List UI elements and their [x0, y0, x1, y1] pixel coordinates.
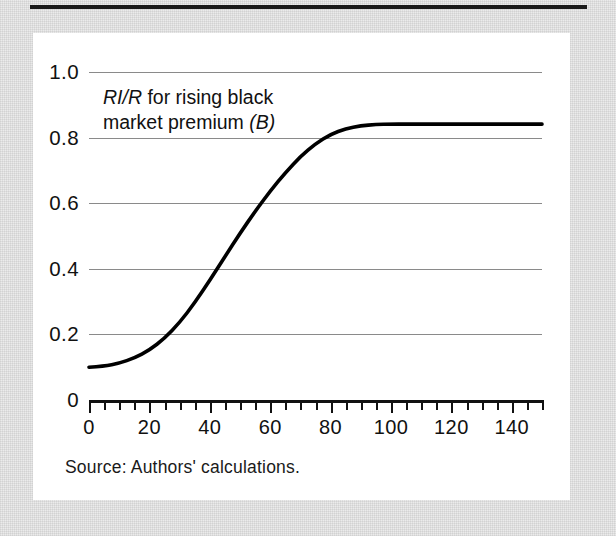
x-tick-50	[240, 400, 242, 410]
x-tick-70	[300, 400, 302, 410]
x-tick-55	[255, 400, 257, 410]
x-tick-65	[285, 400, 287, 410]
x-tick-135	[497, 400, 499, 410]
y-tick-label-0.4: 0.4	[19, 259, 79, 280]
annotation-part-3: (B)	[249, 111, 275, 133]
x-tick-label-40: 40	[198, 416, 221, 439]
x-tick-label-20: 20	[138, 416, 161, 439]
series-line-ri-over-r	[89, 124, 542, 367]
x-tick-140	[512, 400, 514, 413]
y-tick-label-0.6: 0.6	[19, 193, 79, 214]
x-tick-105	[406, 400, 408, 410]
x-tick-80	[331, 400, 333, 413]
x-tick-125	[467, 400, 469, 410]
x-tick-130	[482, 400, 484, 410]
annotation-part-1: for rising black	[142, 86, 273, 108]
x-tick-40	[210, 400, 212, 413]
x-tick-0	[89, 400, 91, 413]
y-tick-label-0.2: 0.2	[19, 324, 79, 345]
y-tick-label-0.8: 0.8	[19, 128, 79, 149]
x-tick-75	[316, 400, 318, 410]
x-tick-label-0: 0	[83, 416, 95, 439]
x-tick-10	[119, 400, 121, 410]
x-tick-150	[542, 400, 544, 410]
x-tick-95	[376, 400, 378, 410]
x-tick-15	[134, 400, 136, 410]
x-tick-35	[195, 400, 197, 410]
annotation-part-2: market premium	[103, 111, 249, 133]
figure-container: 1.00.80.60.40.20 020406080100120140 RI/R…	[0, 0, 616, 536]
x-tick-115	[436, 400, 438, 410]
x-tick-5	[104, 400, 106, 410]
y-tick-label-0: 0	[19, 390, 79, 411]
x-tick-label-80: 80	[319, 416, 342, 439]
figure-panel: 1.00.80.60.40.20 020406080100120140 RI/R…	[33, 33, 570, 500]
x-tick-label-60: 60	[259, 416, 282, 439]
x-tick-60	[270, 400, 272, 413]
annotation-part-0: RI/R	[103, 86, 142, 108]
y-tick-label-1.0: 1.0	[19, 62, 79, 83]
x-tick-label-120: 120	[434, 416, 469, 439]
x-tick-145	[527, 400, 529, 410]
x-tick-label-100: 100	[374, 416, 409, 439]
x-tick-45	[225, 400, 227, 410]
x-tick-120	[451, 400, 453, 413]
x-tick-30	[180, 400, 182, 410]
x-tick-100	[391, 400, 393, 413]
x-axis: 020406080100120140	[89, 400, 542, 401]
series-annotation: RI/R for rising black market premium (B)	[103, 85, 403, 135]
x-tick-25	[165, 400, 167, 410]
top-rule-divider	[30, 5, 587, 9]
x-tick-85	[346, 400, 348, 410]
x-tick-110	[421, 400, 423, 410]
source-note: Source: Authors' calculations.	[65, 457, 300, 478]
x-tick-90	[361, 400, 363, 410]
x-tick-20	[149, 400, 151, 413]
x-tick-label-140: 140	[495, 416, 530, 439]
